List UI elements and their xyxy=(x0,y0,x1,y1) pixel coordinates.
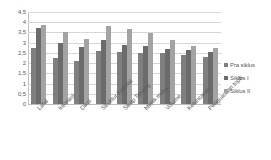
legend-label: Pra siklus xyxy=(230,62,255,68)
legend-swatch-icon xyxy=(224,89,228,93)
y-axis-tick-labels: 4,543,532,521,510,50 xyxy=(0,12,26,104)
y-axis-tick-label: 0,5 xyxy=(0,91,26,97)
legend-item[interactable]: Siklus I xyxy=(224,74,270,81)
bar-group xyxy=(92,12,113,104)
legend-swatch-icon xyxy=(224,76,228,80)
bar xyxy=(148,33,153,104)
y-axis-tick-label: 2 xyxy=(0,60,26,66)
bar-group xyxy=(49,12,70,104)
x-axis-category-labels: LafalIntonasiDiksiStruktur KalimatSikap … xyxy=(28,105,221,160)
bar-group xyxy=(71,12,92,104)
y-axis-tick-label: 3 xyxy=(0,40,26,46)
legend-swatch-icon xyxy=(224,63,228,67)
bar xyxy=(106,26,111,104)
y-axis-tick-label: 2,5 xyxy=(0,50,26,56)
chart-legend: Pra siklusSiklus ISiklus II xyxy=(224,61,270,100)
bar-group xyxy=(28,12,49,104)
bar xyxy=(41,25,46,104)
y-axis-tick-label: 3,5 xyxy=(0,29,26,35)
legend-item[interactable]: Siklus II xyxy=(224,87,270,94)
y-axis-tick-label: 0 xyxy=(0,101,26,107)
y-axis-tick-label: 1 xyxy=(0,81,26,87)
legend-item[interactable]: Pra siklus xyxy=(224,61,270,68)
bar-chart: 4,543,532,521,510,50 LafalIntonasiDiksiS… xyxy=(0,0,271,160)
bar xyxy=(191,46,196,104)
bar-group xyxy=(178,12,199,104)
bar xyxy=(127,29,132,104)
y-axis-tick-label: 4 xyxy=(0,19,26,25)
bar xyxy=(63,32,68,104)
bar xyxy=(84,39,89,104)
legend-label: Siklus II xyxy=(230,88,250,94)
y-axis-tick-label: 1,5 xyxy=(0,70,26,76)
y-axis-tick-label: 4,5 xyxy=(0,9,26,15)
bar xyxy=(170,40,175,104)
legend-label: Siklus I xyxy=(230,75,249,81)
